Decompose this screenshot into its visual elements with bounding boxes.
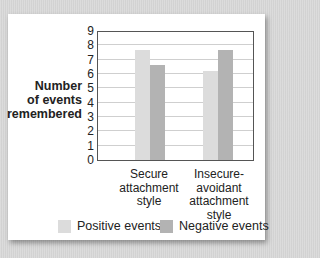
legend-item-positive: Positive events [58, 219, 161, 233]
category-label-line: Insecure- [182, 168, 256, 182]
category-label-line: avoidant [182, 182, 256, 196]
y-tick-label: 0 [74, 154, 94, 166]
y-axis-label-line: remembered [0, 107, 82, 121]
plot-area [97, 31, 254, 161]
y-tick-label: 2 [74, 125, 94, 137]
y-tick-label: 3 [74, 111, 94, 123]
category-label-insecure: Insecure- avoidant attachment style [182, 168, 256, 222]
y-axis-label-line: Number [0, 79, 82, 93]
y-axis-label: Number of events remembered [0, 79, 82, 121]
bar-negative [150, 65, 165, 160]
bar-positive [135, 50, 150, 160]
legend-label: Negative events [179, 219, 269, 233]
gridline [98, 44, 253, 45]
y-tick-label: 6 [74, 68, 94, 80]
y-tick-label: 8 [74, 39, 94, 51]
category-label-line: Secure [112, 168, 186, 182]
legend-label: Positive events [77, 219, 161, 233]
legend-item-negative: Negative events [160, 219, 269, 233]
legend-swatch-negative [160, 220, 173, 233]
legend-swatch-positive [58, 220, 71, 233]
bar-negative [218, 50, 233, 160]
y-tick-label: 7 [74, 54, 94, 66]
y-tick-label: 5 [74, 82, 94, 94]
bar-positive [203, 71, 218, 160]
category-label-line: attachment [112, 182, 186, 196]
category-label-secure: Secure attachment style [112, 168, 186, 209]
category-label-line: style [112, 195, 186, 209]
y-tick-label: 1 [74, 140, 94, 152]
y-tick-label: 4 [74, 97, 94, 109]
y-tick-label: 9 [74, 25, 94, 37]
y-axis-label-line: of events [0, 93, 82, 107]
category-label-line: attachment [182, 195, 256, 209]
